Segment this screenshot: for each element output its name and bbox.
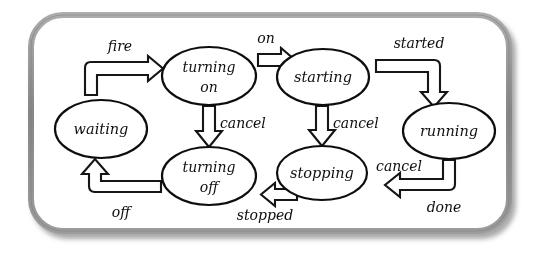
state-label-stopping: stopping: [290, 165, 354, 181]
state-node-waiting[interactable]: waiting: [55, 100, 147, 158]
transition-label-off: off: [112, 204, 132, 220]
state-label-turning-on-line2: on: [200, 79, 217, 95]
state-machine-diagram: waiting turning on starting running turn…: [0, 0, 533, 264]
state-node-stopping[interactable]: stopping: [277, 146, 367, 200]
transition-label-cancel-2: cancel: [333, 115, 379, 131]
transition-label-stopped: stopped: [237, 207, 293, 223]
state-label-turning-off-line2: off: [200, 179, 220, 195]
transition-label-fire: fire: [107, 38, 132, 54]
state-label-waiting: waiting: [74, 121, 129, 137]
transition-label-cancel-3: cancel: [376, 158, 422, 174]
diagram-canvas: waiting turning on starting running turn…: [0, 0, 533, 264]
state-label-running: running: [420, 123, 478, 139]
transition-label-done: done: [427, 199, 462, 215]
state-node-running[interactable]: running: [403, 103, 495, 159]
transition-label-cancel-1: cancel: [220, 115, 266, 131]
state-label-starting: starting: [294, 69, 352, 85]
state-node-turning-off[interactable]: turning off: [162, 147, 256, 205]
state-node-turning-on[interactable]: turning on: [162, 47, 256, 105]
transition-label-started: started: [394, 35, 445, 51]
transition-label-on: on: [257, 30, 274, 46]
state-label-turning-on-line1: turning: [183, 59, 236, 75]
state-label-turning-off-line1: turning: [183, 159, 236, 175]
state-node-starting[interactable]: starting: [277, 49, 369, 105]
